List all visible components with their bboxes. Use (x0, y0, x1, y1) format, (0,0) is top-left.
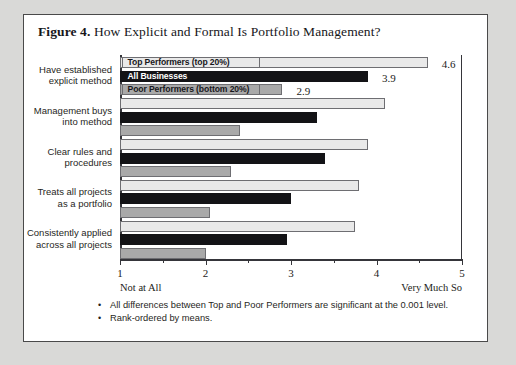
y-axis-category-label-line: Treats all projects (0, 186, 112, 198)
figure-number: Figure 4. (38, 24, 90, 39)
y-axis-category-label-line: Management buys (0, 105, 112, 117)
bar (120, 180, 359, 191)
bar (120, 112, 317, 123)
x-axis-tick-label: 4 (374, 267, 380, 279)
bar-group (120, 98, 462, 136)
chart-plot-area: 12345 Have establishedexplicit methodMan… (120, 55, 462, 259)
bar (120, 248, 206, 259)
x-axis-tick-label: 2 (203, 267, 209, 279)
y-axis-category-label-line: as a portfolio (0, 198, 112, 210)
bar (120, 166, 231, 177)
x-axis-minor-tick (419, 259, 420, 263)
y-axis-category-label-line: Consistently applied (0, 227, 112, 239)
x-axis-major-tick (377, 259, 378, 265)
bar-group (120, 139, 462, 177)
y-axis-category-label: Management buysinto method (0, 105, 112, 128)
x-axis-major-tick (206, 259, 207, 265)
bar (120, 221, 355, 232)
axis-caption-low: Not at All (120, 282, 161, 293)
y-axis-category-label-line: across all projects (0, 239, 112, 251)
figure-title-text: How Explicit and Formal Is Portfolio Man… (94, 24, 381, 39)
bar-group (120, 221, 462, 259)
x-axis-minor-tick (163, 259, 164, 263)
x-axis-major-tick (120, 259, 121, 265)
x-axis-major-tick (291, 259, 292, 265)
x-axis-tick-label: 5 (459, 267, 465, 279)
y-axis-category-label: Consistently appliedacross all projects (0, 227, 112, 250)
figure-container: Figure 4. How Explicit and Formal Is Por… (23, 14, 488, 342)
bar (120, 139, 368, 150)
y-axis-category-label: Clear rules andprocedures (0, 146, 112, 169)
bar-value-label: 3.9 (382, 72, 396, 84)
y-axis-category-label-line: explicit method (0, 75, 112, 87)
legend-item-poor-performers: Poor Performers (bottom 20%) (122, 84, 260, 95)
y-axis-category-label-line: Have established (0, 64, 112, 76)
bar-value-label: 4.6 (442, 58, 456, 70)
x-axis-minor-tick (334, 259, 335, 263)
y-axis-category-label-line: Clear rules and (0, 146, 112, 158)
x-axis-tick-label: 3 (288, 267, 294, 279)
bar (120, 234, 287, 245)
y-axis-category-labels: Have establishedexplicit methodManagemen… (0, 55, 112, 259)
figure-title: Figure 4. How Explicit and Formal Is Por… (38, 24, 381, 40)
footnote-item: Rank-ordered by means. (98, 312, 468, 325)
y-axis-category-label-line: into method (0, 116, 112, 128)
legend-item-top-performers: Top Performers (top 20%) (122, 57, 260, 68)
x-axis-minor-tick (248, 259, 249, 263)
y-axis-category-label-line: procedures (0, 157, 112, 169)
bar (120, 153, 325, 164)
bar (120, 193, 291, 204)
x-axis-tick-label: 1 (117, 267, 123, 279)
bar-group (120, 180, 462, 218)
bar (120, 125, 240, 136)
y-axis-category-label: Treats all projectsas a portfolio (0, 186, 112, 209)
footnote-item: All differences between Top and Poor Per… (98, 299, 468, 312)
x-axis-major-tick (462, 259, 463, 265)
chart-legend: Top Performers (top 20%) All Businesses … (122, 57, 260, 98)
bar-value-label: 2.9 (296, 85, 310, 97)
figure-footnotes: All differences between Top and Poor Per… (98, 299, 468, 325)
bar (120, 207, 210, 218)
bar (120, 98, 385, 109)
legend-item-all-businesses: All Businesses (122, 71, 240, 82)
axis-caption-high: Very Much So (401, 282, 462, 293)
y-axis-category-label: Have establishedexplicit method (0, 64, 112, 87)
